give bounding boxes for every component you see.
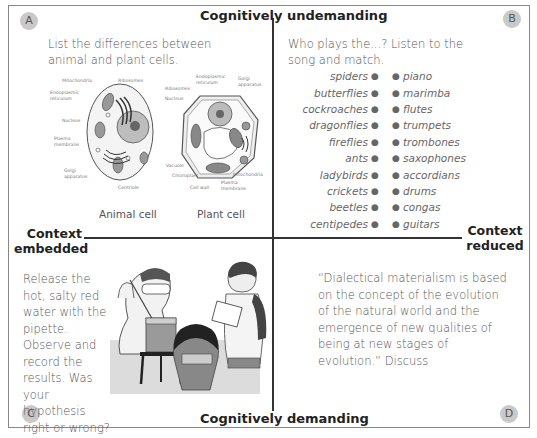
match-row: butterflies●●marimba bbox=[295, 84, 485, 100]
axis-label-top: Cognitively undemanding bbox=[200, 8, 350, 23]
animal-cell-illustration bbox=[78, 80, 158, 190]
match-right-item: guitars bbox=[403, 218, 485, 230]
label-ribosomes: Ribosomes bbox=[118, 78, 143, 84]
bullet-icon: ● bbox=[368, 186, 382, 196]
bullet-icon: ● bbox=[368, 88, 382, 98]
match-left-item: fireflies bbox=[295, 136, 368, 148]
label-plant-cell-wall: Cell wall bbox=[190, 185, 209, 191]
match-row: crickets●●drums bbox=[295, 183, 485, 199]
bullet-icon: ● bbox=[368, 137, 382, 147]
match-left-item: cockroaches bbox=[295, 103, 368, 115]
match-right-item: flutes bbox=[403, 103, 485, 115]
quadrant-d-instruction: “Dialectical materialism is based on the… bbox=[318, 270, 508, 369]
quadrant-b-instruction: Who plays the...? Listen to the song and… bbox=[288, 36, 468, 68]
match-row: fireflies●●trombones bbox=[295, 134, 485, 150]
match-right-item: marimba bbox=[403, 87, 485, 99]
bullet-icon: ● bbox=[389, 120, 403, 130]
match-row: ants●●saxophones bbox=[295, 150, 485, 166]
students-lab-illustration bbox=[110, 258, 270, 394]
label-endoplasmic-reticulum: Endoplasmic reticulum bbox=[50, 90, 78, 101]
quadrant-badge-b: B bbox=[503, 10, 521, 28]
bullet-icon: ● bbox=[389, 153, 403, 163]
bullet-icon: ● bbox=[368, 202, 382, 212]
match-left-item: beetles bbox=[295, 201, 368, 213]
bullet-icon: ● bbox=[389, 170, 403, 180]
plant-cell-caption: Plant cell bbox=[197, 208, 245, 220]
bullet-icon: ● bbox=[368, 120, 382, 130]
match-right-item: saxophones bbox=[403, 152, 485, 164]
match-right-item: congas bbox=[403, 201, 485, 213]
quadrant-c-instruction: Release the hot, salty red water with th… bbox=[23, 271, 113, 436]
bullet-icon: ● bbox=[368, 104, 382, 114]
bullet-icon: ● bbox=[389, 202, 403, 212]
bullet-icon: ● bbox=[368, 71, 382, 81]
bullet-icon: ● bbox=[389, 137, 403, 147]
match-right-item: piano bbox=[403, 70, 485, 82]
horizontal-axis bbox=[84, 237, 462, 239]
axis-label-bottom: Cognitively demanding bbox=[200, 411, 350, 426]
match-row: spiders●●piano bbox=[295, 68, 485, 84]
label-plant-plasma-membrane: Plasma membrane bbox=[221, 180, 245, 191]
match-row: centipedes●●guitars bbox=[295, 216, 485, 232]
label-plant-chloroplast: Chloroplast bbox=[172, 173, 198, 179]
match-row: dragonflies●●trumpets bbox=[295, 117, 485, 133]
label-plant-vacuole: Vacuole bbox=[166, 163, 184, 169]
quadrant-badge-a: A bbox=[20, 12, 38, 30]
label-plasma-membrane: Plasma membrane bbox=[54, 136, 78, 147]
matching-exercise: spiders●●piano butterflies●●marimba cock… bbox=[295, 68, 485, 232]
bullet-icon: ● bbox=[389, 219, 403, 229]
bullet-icon: ● bbox=[389, 104, 403, 114]
axis-label-left-line2: embedded bbox=[14, 241, 82, 256]
match-right-item: trombones bbox=[403, 136, 485, 148]
match-row: ladybirds●●accordians bbox=[295, 166, 485, 182]
bullet-icon: ● bbox=[368, 219, 382, 229]
bullet-icon: ● bbox=[389, 71, 403, 81]
label-plant-mitochondria: Mitochondria bbox=[233, 172, 263, 178]
label-nucleus: Nucleus bbox=[62, 118, 80, 124]
label-plant-nucleus: Nucleus bbox=[165, 96, 183, 102]
label-plant-ribosomes: Ribosomes bbox=[165, 86, 190, 92]
label-mitochondria: Mitochondria bbox=[62, 78, 92, 84]
match-right-item: trumpets bbox=[403, 119, 485, 131]
match-left-item: spiders bbox=[295, 70, 368, 82]
match-right-item: drums bbox=[403, 185, 485, 197]
match-row: cockroaches●●flutes bbox=[295, 101, 485, 117]
match-left-item: ladybirds bbox=[295, 169, 368, 181]
match-left-item: dragonflies bbox=[295, 119, 368, 131]
animal-cell-caption: Animal cell bbox=[99, 208, 157, 220]
bullet-icon: ● bbox=[389, 88, 403, 98]
match-left-item: butterflies bbox=[295, 87, 368, 99]
quadrant-badge-d: D bbox=[500, 405, 518, 423]
match-row: beetles●●congas bbox=[295, 199, 485, 215]
axis-label-left: Context embedded bbox=[14, 226, 82, 256]
bullet-icon: ● bbox=[368, 170, 382, 180]
bullet-icon: ● bbox=[389, 186, 403, 196]
plant-cell-illustration bbox=[180, 92, 260, 182]
label-plant-golgi-apparatus: Golgi apparatus bbox=[238, 76, 260, 87]
quadrant-a-instruction: List the differences between animal and … bbox=[48, 36, 218, 68]
axis-label-left-line1: Context bbox=[14, 226, 82, 241]
vertical-axis bbox=[272, 18, 274, 411]
axis-label-right-line2: reduced bbox=[464, 238, 526, 253]
label-centriole: Centriole bbox=[118, 185, 139, 191]
bullet-icon: ● bbox=[368, 153, 382, 163]
label-golgi-apparatus: Golgi apparatus bbox=[64, 168, 88, 179]
match-right-item: accordians bbox=[403, 169, 485, 181]
match-left-item: crickets bbox=[295, 185, 368, 197]
match-left-item: ants bbox=[295, 152, 368, 164]
label-plant-endoplasmic-reticulum: Endoplasmic reticulum bbox=[196, 74, 226, 85]
match-left-item: centipedes bbox=[295, 218, 368, 230]
